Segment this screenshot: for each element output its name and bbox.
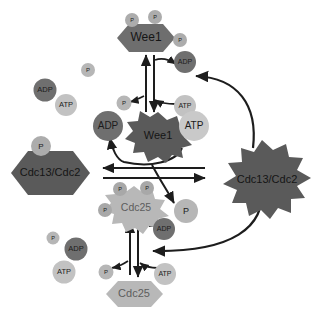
adp-icon	[174, 51, 196, 73]
phosphate-icon	[113, 182, 127, 196]
phosphate-icon	[125, 13, 139, 27]
phosphate-icon	[148, 10, 162, 24]
adp-icon	[93, 111, 123, 141]
phosphate-icon	[174, 199, 198, 223]
phosphate-icon	[173, 33, 187, 47]
phosphate-icon	[140, 181, 154, 195]
phosphate-icon	[31, 136, 51, 156]
cdc25-hexagon-shape	[106, 281, 163, 307]
node-cdc25-inactive[interactable]: Cdc25	[106, 281, 163, 307]
phosphate-icon	[81, 63, 95, 77]
wee1-hexagon-shape	[117, 24, 175, 52]
adp-icon	[65, 238, 88, 261]
atp-icon	[55, 94, 77, 116]
phosphate-icon	[98, 203, 112, 217]
adp-icon	[34, 79, 57, 102]
diagram-canvas: P ADP ATP P ADP ATP	[0, 0, 324, 318]
atp-icon	[154, 263, 176, 285]
phosphate-icon	[47, 232, 60, 245]
adp-icon	[153, 218, 175, 240]
atp-icon	[53, 261, 76, 284]
atp-icon	[179, 111, 209, 141]
phosphate-icon	[99, 265, 114, 280]
phosphate-icon	[117, 96, 132, 111]
